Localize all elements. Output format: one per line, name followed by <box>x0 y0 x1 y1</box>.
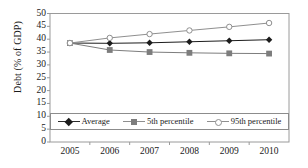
legend-marker-square-icon <box>123 117 145 126</box>
data-point-marker <box>227 24 232 29</box>
data-point-marker <box>266 20 271 25</box>
x-tick-label: 2007 <box>130 146 170 156</box>
legend-label: 95th percentile <box>231 117 282 126</box>
plot-area <box>0 0 308 168</box>
legend-item-5th-percentile: 5th percentile <box>123 117 194 126</box>
x-tick-label: 2006 <box>90 146 130 156</box>
legend-marker-circle-icon <box>207 117 229 126</box>
legend-item-95th-percentile: 95th percentile <box>207 117 282 126</box>
x-tick-label: 2008 <box>169 146 209 156</box>
debt-line-chart: Debt (% of GDP) 05101520253035404550 200… <box>0 0 308 168</box>
legend-item-average: Average <box>58 117 110 126</box>
legend-marker-diamond-icon <box>58 117 80 126</box>
chart-legend: Average 5th percentile 95th percentile <box>50 113 289 130</box>
data-point-marker <box>147 49 153 55</box>
data-point-marker <box>107 35 112 40</box>
x-tick-label: 2010 <box>249 146 289 156</box>
data-point-marker <box>226 50 232 56</box>
data-point-marker <box>187 28 192 33</box>
data-point-marker <box>266 51 272 57</box>
legend-label: 5th percentile <box>147 117 194 126</box>
data-point-marker <box>147 31 152 36</box>
data-point-marker <box>67 40 72 45</box>
x-tick-label: 2005 <box>50 146 90 156</box>
legend-label: Average <box>82 117 110 126</box>
data-point-marker <box>107 47 113 53</box>
data-point-marker <box>187 50 193 56</box>
x-tick-label: 2009 <box>209 146 249 156</box>
